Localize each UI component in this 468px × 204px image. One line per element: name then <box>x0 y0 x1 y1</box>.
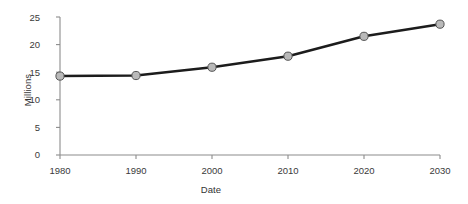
data-point-markers <box>56 20 444 80</box>
data-series-line <box>60 24 440 76</box>
x-tick-marks <box>60 155 440 159</box>
data-point-2030 <box>436 20 444 28</box>
data-point-1990 <box>132 71 140 79</box>
plot-area <box>0 0 468 204</box>
data-point-2000 <box>208 63 216 71</box>
data-point-1980 <box>56 72 64 80</box>
y-tick-marks <box>56 17 60 155</box>
line-chart: Millions Date 25 20 15 10 5 0 1980 1990 … <box>0 0 468 204</box>
data-point-2020 <box>360 32 368 40</box>
data-point-2010 <box>284 52 292 60</box>
